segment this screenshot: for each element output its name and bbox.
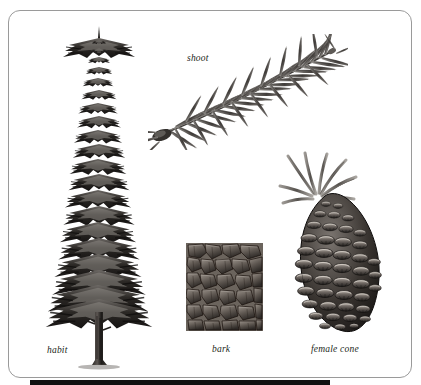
shoot-illustration <box>148 34 348 150</box>
illustration-plate: habit shoot bark female cone <box>0 0 421 385</box>
label-shoot: shoot <box>187 53 209 63</box>
female-cone-illustration <box>278 150 390 342</box>
label-female-cone: female cone <box>311 344 359 354</box>
label-bark: bark <box>212 344 230 354</box>
habit-illustration <box>40 24 158 372</box>
bottom-bar <box>30 380 330 385</box>
bark-illustration <box>186 243 263 331</box>
label-habit: habit <box>47 345 68 355</box>
